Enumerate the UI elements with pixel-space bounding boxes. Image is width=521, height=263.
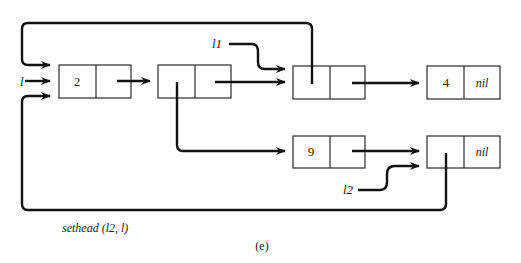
node-4-tail-nil: nil — [476, 76, 489, 90]
node-1-head-value: 2 — [74, 74, 81, 89]
var-l2-label: l2 — [343, 182, 354, 197]
node-4-head-value: 4 — [443, 75, 450, 90]
n6-to-n1-arrow — [22, 96, 446, 210]
subfigure-label: (e) — [255, 239, 268, 253]
var-l-label: l — [20, 74, 24, 89]
node-4: 4 nil — [427, 66, 500, 99]
node-6-tail-nil: nil — [476, 145, 489, 159]
var-l1-arrow — [229, 44, 285, 69]
var-l1-label: l1 — [212, 36, 222, 51]
linked-list-diagram: 2 4 nil 9 nil l l1 — [0, 0, 521, 263]
var-l2-arrow — [358, 166, 419, 190]
node-6: nil — [427, 136, 500, 168]
caption: sethead (l2, l) — [62, 221, 128, 235]
node-5-head-value: 9 — [308, 144, 315, 159]
